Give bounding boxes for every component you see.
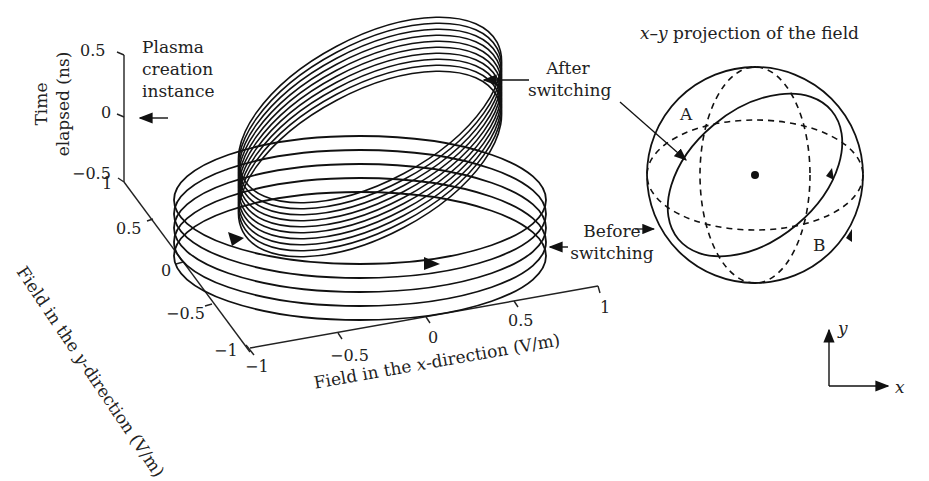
z-tick-label: 0.5 — [80, 40, 105, 62]
projection-title-var: x–y — [640, 23, 668, 43]
center-dot — [751, 171, 759, 179]
direction-arrow-icon — [228, 232, 244, 246]
y-tick-label: −0.5 — [166, 303, 205, 325]
x-tick-label: 1 — [600, 297, 610, 319]
y-tick-label: 0 — [161, 260, 171, 282]
x-tick-label: 0 — [428, 327, 438, 349]
x-axis-indicator-label: x — [895, 376, 905, 398]
label-a: A — [680, 103, 692, 125]
y-axis — [124, 182, 250, 352]
before-annotation-line: Before — [567, 220, 657, 242]
after-annotation-line: switching — [528, 79, 608, 101]
y-tick-label: −1 — [214, 340, 238, 362]
plasma-annotation: Plasma creation instance — [142, 36, 215, 102]
y-tick-label: 0.5 — [116, 218, 141, 240]
z-axis-title-line: Time — [30, 44, 52, 164]
z-axis-title: Time elapsed (ns) — [30, 44, 74, 164]
after-switching-ellipses — [209, 0, 531, 295]
z-tick-label: 0 — [101, 102, 111, 124]
x-tick-label: −1 — [245, 356, 269, 378]
label-b: B — [813, 234, 826, 256]
z-axis — [117, 52, 124, 182]
after-annotation-line: After — [528, 57, 608, 79]
y-tick-label: 1 — [102, 173, 112, 195]
before-switching-annotation: Before switching — [567, 220, 657, 264]
after-switching-annotation: After switching — [528, 57, 608, 101]
y-axis-indicator-label: y — [838, 317, 848, 339]
direction-arrow-icon — [826, 168, 834, 180]
plasma-annotation-line: Plasma — [142, 36, 215, 58]
plasma-annotation-line: creation — [142, 58, 215, 80]
before-annotation-line: switching — [567, 242, 657, 264]
plasma-annotation-line: instance — [142, 80, 215, 102]
projection-title: x–y projection of the field — [640, 22, 859, 44]
after-projection-arrow-icon — [620, 102, 686, 160]
z-axis-title-line: elapsed (ns) — [52, 44, 74, 164]
projection-title-text: projection of the field — [668, 23, 859, 43]
x-tick-label: 0.5 — [508, 310, 533, 332]
